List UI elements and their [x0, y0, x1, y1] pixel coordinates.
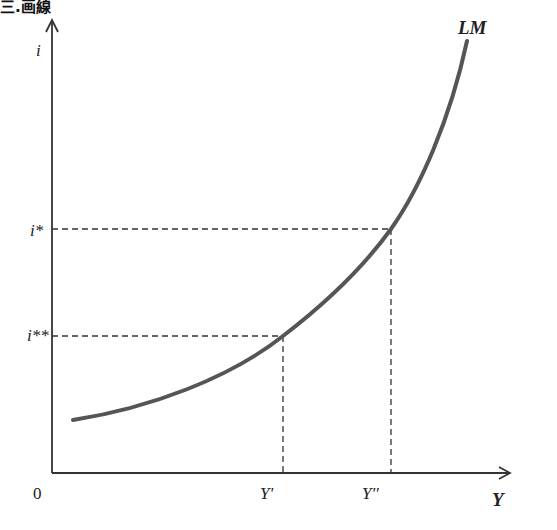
y-double-prime-label: Y'' — [362, 485, 379, 502]
origin-label: 0 — [33, 485, 42, 502]
y-prime-label: Y' — [260, 485, 273, 502]
guide-lines — [52, 229, 391, 473]
x-axis-label: Y — [492, 490, 504, 509]
lm-curve-label: LM — [458, 18, 487, 37]
lm-curve — [73, 41, 467, 420]
i-double-star-label: i** — [27, 327, 49, 344]
lm-diagram — [0, 0, 557, 530]
y-axis-label: i — [36, 42, 41, 59]
i-star-label: i* — [30, 222, 43, 239]
